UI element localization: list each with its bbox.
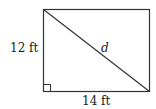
rectangle-diagram: 12 ft d 14 ft: [0, 0, 156, 109]
diagonal-line: [44, 10, 150, 92]
height-label: 12 ft: [10, 41, 39, 55]
diagonal-label: d: [101, 41, 109, 55]
right-angle-icon: [44, 85, 51, 92]
width-label: 14 ft: [82, 94, 111, 108]
